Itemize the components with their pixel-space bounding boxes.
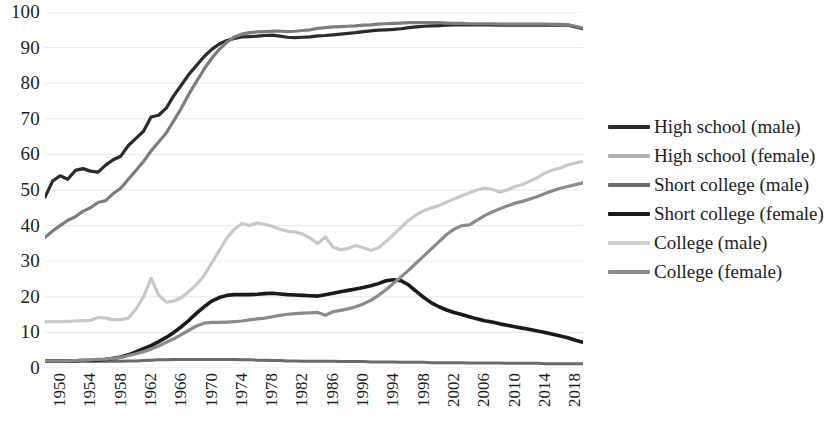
x-tick-label: 1966 (172, 373, 189, 407)
legend-item-label: College (male) (654, 232, 767, 253)
x-tick-label: 2010 (506, 373, 523, 407)
legend-item[interactable]: Short college (male) (608, 170, 836, 199)
legend-item-label: Short college (male) (654, 174, 809, 195)
x-tick-label: 1978 (263, 373, 280, 407)
legend-item-label: High school (male) (654, 116, 801, 137)
chart-legend: High school (male)High school (female)Sh… (608, 112, 836, 286)
legend-swatch-icon (608, 125, 650, 129)
x-tick-label: 1950 (51, 373, 68, 407)
x-tick-label: 2006 (475, 373, 492, 407)
x-tick-label: 2018 (566, 373, 583, 407)
legend-item[interactable]: High school (male) (608, 112, 836, 141)
legend-swatch-icon (608, 270, 650, 274)
x-tick-label: 1962 (142, 373, 159, 407)
x-tick-label: 1998 (415, 373, 432, 407)
legend-item[interactable]: Short college (female) (608, 199, 836, 228)
legend-swatch-icon (608, 212, 650, 216)
legend-item[interactable]: College (female) (608, 257, 836, 286)
x-tick-label: 1970 (203, 373, 220, 407)
legend-item[interactable]: College (male) (608, 228, 836, 257)
chart-figure: 1009080706050403020100 19501954195819621… (0, 0, 836, 427)
legend-item-label: Short college (female) (654, 203, 824, 224)
x-tick-label: 1982 (293, 373, 310, 407)
legend-swatch-icon (608, 241, 650, 245)
x-tick-label: 1958 (112, 373, 129, 407)
legend-swatch-icon (608, 183, 650, 187)
x-tick-label: 1974 (233, 373, 250, 407)
x-tick-label: 1990 (354, 373, 371, 407)
legend-item-label: College (female) (654, 261, 782, 282)
legend-swatch-icon (608, 154, 650, 158)
x-tick-label: 1954 (81, 373, 98, 407)
x-tick-label: 1986 (324, 373, 341, 407)
x-tick-label: 1994 (384, 373, 401, 407)
legend-item[interactable]: High school (female) (608, 141, 836, 170)
x-tick-label: 2002 (445, 373, 462, 407)
x-tick-label: 2014 (536, 373, 553, 407)
legend-item-label: High school (female) (654, 145, 815, 166)
